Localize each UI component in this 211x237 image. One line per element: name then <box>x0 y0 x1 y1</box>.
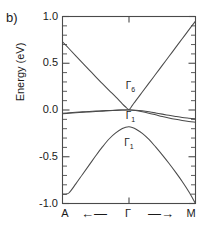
x-axis-label-Gamma: Γ <box>118 207 138 219</box>
x-axis-label-A: A <box>56 207 74 219</box>
band-structure-figure: b) Energy (eV) 1.00.50.0-0.5-1.0 Γ6Γ1Γ1 … <box>0 0 211 237</box>
gamma-point-label: Γ1 <box>124 137 133 150</box>
x-axis-arrow-left: ←— <box>74 206 114 221</box>
x-axis-arrow-right: —→ <box>141 206 181 221</box>
gamma-point-label: Γ6 <box>126 80 135 93</box>
gamma-point-label: Γ1 <box>126 110 135 123</box>
x-axis-label-M: M <box>182 207 200 219</box>
band-annotations: Γ6Γ1Γ1 <box>0 0 211 237</box>
